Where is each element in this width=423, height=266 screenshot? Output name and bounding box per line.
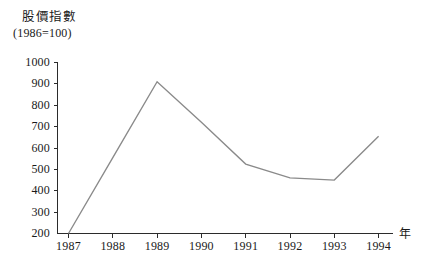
y-axis-tick-label: 200 — [8, 226, 50, 241]
x-axis-ticks — [69, 234, 379, 239]
x-axis-tick-label: 1988 — [91, 239, 135, 254]
x-axis-unit-label: 年 — [399, 224, 411, 242]
y-axis-tick-label: 300 — [8, 205, 50, 220]
x-axis-tick-label: 1990 — [179, 239, 223, 254]
stock-price-index-chart: 股價指數 (1986=100) 10009008007006005 — [0, 0, 423, 266]
x-axis-tick-label: 1989 — [135, 239, 179, 254]
y-axis-tick-label: 700 — [8, 119, 50, 134]
y-axis-tick-label: 900 — [8, 76, 50, 91]
x-axis-tick-label: 1994 — [357, 239, 401, 254]
y-axis-tick-label: 800 — [8, 98, 50, 113]
y-axis-tick-label: 500 — [8, 162, 50, 177]
x-axis-tick-label: 1992 — [268, 239, 312, 254]
stock-index-line — [69, 82, 379, 234]
x-axis-tick-label: 1991 — [224, 239, 268, 254]
y-axis-tick-label: 600 — [8, 141, 50, 156]
y-axis-tick-label: 1000 — [8, 55, 50, 70]
y-axis-tick-label: 400 — [8, 183, 50, 198]
y-axis-ticks — [54, 63, 58, 213]
x-axis-tick-label: 1993 — [312, 239, 356, 254]
x-axis-tick-label: 1987 — [47, 239, 91, 254]
plot-area — [0, 0, 423, 266]
